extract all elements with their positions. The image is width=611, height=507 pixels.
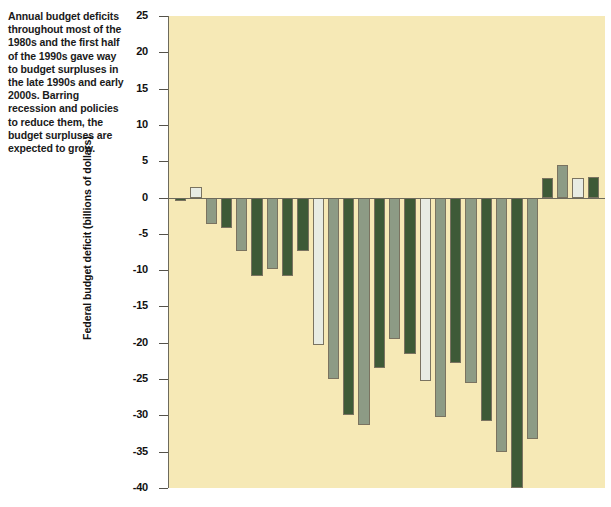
bar [465,198,476,383]
bar [328,198,339,380]
bar [374,198,385,369]
y-axis-label: 10 [114,118,148,130]
bar [236,198,247,251]
y-axis-tick [159,379,168,380]
plot-background [168,16,605,488]
bar [206,198,217,224]
y-axis-tick [159,415,168,416]
bar [481,198,492,422]
y-axis-tick [159,488,168,489]
y-axis-label: -20 [114,336,148,348]
y-axis-label: 5 [114,154,148,166]
bar [527,198,538,440]
y-axis-label: 20 [114,45,148,57]
bar [557,165,568,198]
y-axis-title: Federal budget deficit (billions of doll… [81,88,93,388]
chart-area [168,16,605,488]
bar [251,198,262,276]
y-axis-tick [159,52,168,53]
bar [313,198,324,345]
bar [343,198,354,416]
bar [221,198,232,228]
y-axis-label: -15 [114,299,148,311]
bar [435,198,446,417]
y-axis-label: -40 [114,481,148,493]
bar [404,198,415,354]
y-axis-tick [159,161,168,162]
bar [511,198,522,488]
y-axis-label: 15 [114,82,148,94]
y-axis-label: -25 [114,372,148,384]
y-axis-tick [159,198,168,199]
bar [496,198,507,452]
bar [420,198,431,382]
bar [450,198,461,364]
bar [389,198,400,340]
y-axis-tick [159,125,168,126]
bar [542,178,553,198]
chart-caption: Annual budget deficits throughout most o… [8,10,126,155]
y-axis-label: 0 [114,191,148,203]
bar [297,198,308,251]
y-axis-tick [159,452,168,453]
y-axis-tick [159,306,168,307]
bar [267,198,278,269]
y-axis-label: -5 [114,227,148,239]
bar [588,177,599,197]
y-axis-tick [159,343,168,344]
bar [190,187,201,198]
bar [572,178,583,198]
y-axis-label: 25 [114,9,148,21]
y-axis-tick [159,16,168,17]
y-axis-label: -30 [114,408,148,420]
y-axis-label: -10 [114,263,148,275]
y-axis-tick [159,234,168,235]
bar [282,198,293,276]
zero-baseline [168,198,605,199]
bar [358,198,369,425]
y-axis-tick [159,89,168,90]
y-axis-tick [159,270,168,271]
y-axis-label: -35 [114,445,148,457]
